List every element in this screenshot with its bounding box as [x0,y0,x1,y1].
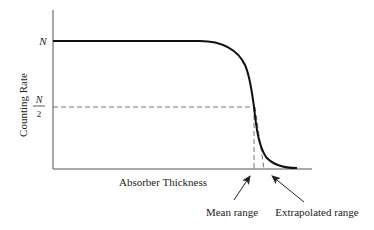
extrapolated-range-arrow [272,176,304,202]
mean-range-arrow [234,176,250,200]
tick-label-half-denominator: 2 [37,109,42,119]
counting-rate-curve [53,41,297,168]
range-curve-diagram: Counting Rate N N 2 Absorber Thickness M… [0,0,374,230]
tick-label-n: N [38,35,47,47]
mean-range-label: Mean range [206,206,258,218]
extrapolated-range-label: Extrapolated range [275,206,358,218]
tick-label-half-numerator: N [35,94,44,105]
x-axis-label: Absorber Thickness [119,176,207,188]
y-axis-label: Counting Rate [17,73,29,137]
